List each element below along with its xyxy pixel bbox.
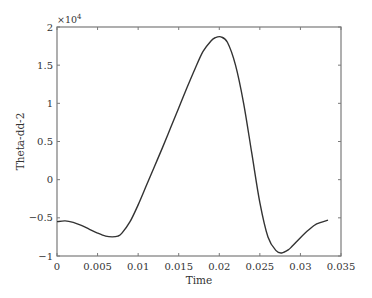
x-tick-label: 0.025: [246, 261, 275, 272]
x-tick-label: 0.035: [327, 261, 356, 272]
y-axis-label: Theta-dd-2: [14, 113, 26, 171]
x-tick-label: 0: [54, 261, 60, 272]
x-tick-label: 0.02: [208, 261, 230, 272]
line-chart: 00.0050.010.0150.020.0250.030.035−1−0.50…: [0, 0, 372, 298]
data-line-series: [57, 37, 328, 253]
y-tick-label: −1: [38, 251, 53, 262]
series-line: [57, 37, 328, 253]
x-tick-label: 0.01: [127, 261, 149, 272]
x-axis-label: Time: [186, 274, 213, 286]
x-tick-label: 0.015: [164, 261, 193, 272]
axis-labels: 00.0050.010.0150.020.0250.030.035−1−0.50…: [14, 13, 355, 286]
y-tick-label: 2: [47, 22, 53, 33]
y-tick-label: 1.5: [37, 60, 53, 71]
y-tick-label: −0.5: [29, 212, 53, 223]
y-multiplier-label: ×104: [57, 13, 82, 25]
x-tick-label: 0.03: [289, 261, 311, 272]
y-tick-label: 0.5: [37, 136, 53, 147]
x-tick-label: 0.005: [83, 261, 112, 272]
y-tick-label: 0: [47, 174, 53, 185]
y-tick-label: 1: [47, 98, 53, 109]
